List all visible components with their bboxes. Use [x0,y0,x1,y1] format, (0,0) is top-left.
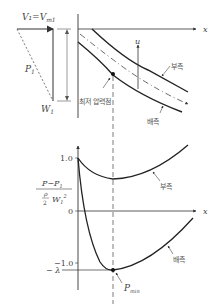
tick-lambda: − λ [46,266,60,275]
w1-label: W1 [41,104,54,115]
plot-suction-label: 부측 [160,182,173,191]
pmin-dot [111,268,115,272]
min-pressure-dot [111,72,115,76]
y-label-rho: ρ [43,190,48,198]
tick-0: 0 [68,207,73,216]
y-label-w1sq: W12 [52,193,67,205]
min-pressure-label: 최저 압력점 [79,97,111,106]
tick-1: 1.0 [60,154,73,163]
diagram-canvas: V₁=Vm1 P1 W1 x u 최저 압력점 부측 배측 x [0,0,220,304]
plot-x-label: x [203,207,208,216]
y-label-two: 2 [43,199,47,206]
y-label-numerator: P−P1 [41,179,63,189]
pmin-label: Pmin [123,283,140,294]
plot-pressure-label: 배측 [173,255,186,264]
velocity-triangle: V₁=Vm1 P1 W1 [17,12,71,115]
pressure-plot: x 1.0 0 −1.0 − λ P−P1 ρ 2 W12 부측 배측 Pmin [36,145,208,294]
cascade-x-label: x [203,25,208,34]
v1-label: V₁=Vm1 [22,12,56,23]
suction-side-label: 부측 [171,62,184,71]
p1-dashed-line [17,29,53,101]
pressure-side-label: 배측 [147,117,160,126]
p1-label: P1 [24,64,35,75]
suction-pressure-curve [78,145,188,179]
u-label: u [135,37,140,46]
